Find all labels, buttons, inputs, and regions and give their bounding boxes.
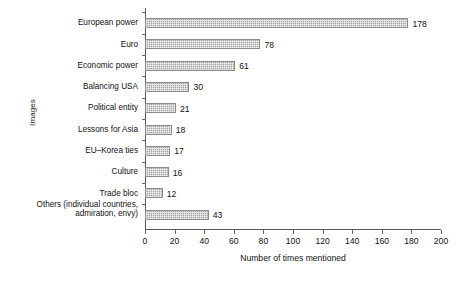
bar-value-label: 16 bbox=[173, 168, 183, 178]
category-label: Culture bbox=[112, 167, 138, 177]
x-axis-tick bbox=[234, 230, 235, 234]
category-label: EU–Korea ties bbox=[85, 146, 138, 156]
bar bbox=[145, 103, 176, 113]
y-axis-tick bbox=[142, 140, 145, 141]
bar bbox=[145, 61, 235, 71]
y-axis-tick bbox=[142, 162, 145, 163]
x-axis-tick-label: 80 bbox=[251, 236, 275, 246]
bar bbox=[145, 18, 408, 28]
x-axis-tick-label: 20 bbox=[163, 236, 187, 246]
x-axis-tick-label: 180 bbox=[399, 236, 423, 246]
bar bbox=[145, 39, 260, 49]
bar-value-label: 43 bbox=[213, 210, 223, 220]
bar bbox=[145, 82, 189, 92]
x-axis-tick-label: 40 bbox=[192, 236, 216, 246]
x-axis-tick bbox=[293, 230, 294, 234]
y-axis-tick bbox=[142, 204, 145, 205]
x-axis-tick-label: 60 bbox=[222, 236, 246, 246]
x-axis-tick bbox=[352, 230, 353, 234]
x-axis-tick bbox=[323, 230, 324, 234]
y-axis-tick bbox=[142, 98, 145, 99]
x-axis-title: Number of times mentioned bbox=[145, 253, 441, 263]
x-axis-tick-label: 100 bbox=[281, 236, 305, 246]
y-axis-tick bbox=[142, 55, 145, 56]
x-axis-tick bbox=[204, 230, 205, 234]
bar-value-label: 18 bbox=[176, 125, 186, 135]
y-axis-tick bbox=[142, 34, 145, 35]
category-axis-labels: European powerEuroEconomic powerBalancin… bbox=[8, 8, 142, 230]
category-label-line1: Others (individual countries, bbox=[6, 200, 138, 210]
x-axis-tick bbox=[263, 230, 264, 234]
category-label: Political entity bbox=[88, 103, 138, 113]
category-label: Balancing USA bbox=[83, 82, 138, 92]
x-axis-tick bbox=[382, 230, 383, 234]
bar-value-label: 78 bbox=[264, 40, 274, 50]
y-axis-tick bbox=[142, 119, 145, 120]
x-axis-tick bbox=[145, 230, 146, 234]
y-axis-tick bbox=[142, 183, 145, 184]
bar-value-label: 21 bbox=[180, 104, 190, 114]
bar-value-label: 17 bbox=[174, 146, 184, 156]
bar-value-label: 178 bbox=[412, 19, 426, 29]
x-axis-tick bbox=[411, 230, 412, 234]
category-label: Others (individual countries,admiration,… bbox=[6, 200, 138, 219]
x-axis-tick-label: 140 bbox=[340, 236, 364, 246]
category-label: Economic power bbox=[77, 61, 138, 71]
x-axis-tick-label: 160 bbox=[370, 236, 394, 246]
bar-value-label: 30 bbox=[193, 82, 203, 92]
x-axis-tick bbox=[175, 230, 176, 234]
bar bbox=[145, 125, 172, 135]
category-label: European power bbox=[78, 18, 138, 28]
bar-chart: Images European powerEuroEconomic powerB… bbox=[0, 0, 458, 284]
bar bbox=[145, 167, 169, 177]
x-axis-tick-label: 120 bbox=[311, 236, 335, 246]
category-label: Lessons for Asia bbox=[78, 125, 138, 135]
bar-value-label: 12 bbox=[167, 189, 177, 199]
bar bbox=[145, 210, 209, 220]
y-axis-tick bbox=[142, 12, 145, 13]
plot-area: 178786130211817161243 020406080100120140… bbox=[145, 8, 441, 230]
bar bbox=[145, 188, 163, 198]
x-axis-tick bbox=[441, 230, 442, 234]
category-label: Euro bbox=[121, 40, 138, 50]
bar-value-label: 61 bbox=[239, 61, 249, 71]
category-label-line2: admiration, envy) bbox=[6, 209, 138, 219]
x-axis-tick-label: 200 bbox=[429, 236, 453, 246]
y-axis-tick bbox=[142, 76, 145, 77]
bar bbox=[145, 146, 170, 156]
category-label: Trade bloc bbox=[100, 189, 138, 199]
x-axis-tick-label: 0 bbox=[133, 236, 157, 246]
